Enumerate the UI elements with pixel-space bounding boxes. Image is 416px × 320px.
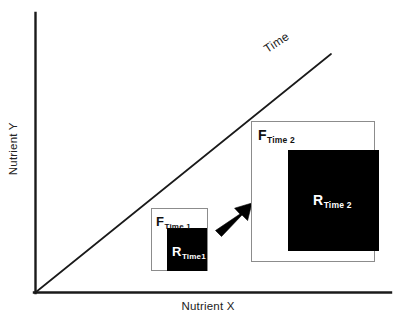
x-axis-label: Nutrient X xyxy=(0,301,416,313)
realized-niche-label-time1: RTime1 xyxy=(172,243,205,259)
r-symbol-time2: R xyxy=(313,192,323,208)
f-symbol-time2: F xyxy=(258,127,267,143)
r-symbol-time1: R xyxy=(172,244,181,259)
fundamental-niche-label-time1: FTime 1 xyxy=(156,213,190,229)
y-axis-label: Nutrient Y xyxy=(8,94,20,204)
fundamental-niche-label-time2: FTime 2 xyxy=(258,127,295,143)
nutrient-niche-figure: FTime 1 RTime1 FTime 2 RTime 2 Time Nutr… xyxy=(0,0,416,320)
realized-niche-label-time2: RTime 2 xyxy=(313,192,351,208)
f-subscript-time1: Time 1 xyxy=(164,222,190,231)
r-subscript-time2: Time 2 xyxy=(324,200,352,210)
f-subscript-time2: Time 2 xyxy=(267,135,295,145)
r-subscript-time1: Time1 xyxy=(182,252,206,261)
f-symbol-time1: F xyxy=(156,214,164,229)
transition-arrow xyxy=(216,203,253,237)
